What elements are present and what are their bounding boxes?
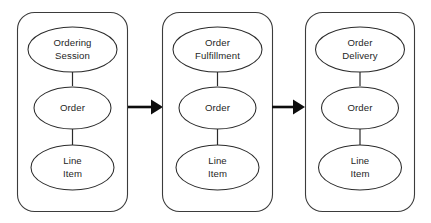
phase-group-2[interactable]: Order Fulfillment Order Line Item	[163, 13, 273, 212]
phase-group-3[interactable]: Order Delivery Order Line Item	[306, 13, 415, 212]
phase-3-node-1-label-line-2: Delivery	[342, 50, 378, 61]
arrow-2-head-icon	[293, 100, 305, 115]
phase-2-node-3-label-line-1: Line	[208, 155, 227, 166]
diagram-canvas: Ordering Session Order Line Item Order F…	[0, 0, 431, 223]
phase-1-node-1-label-line-2: Session	[55, 50, 90, 61]
phase-1-node-3-label-line-2: Item	[63, 168, 82, 179]
phase-3-node-1-label-line-1: Order	[347, 37, 373, 48]
phase-1-node-2-label: Order	[60, 102, 86, 113]
phase-2-node-3-label-line-2: Item	[208, 168, 227, 179]
phase-group-1[interactable]: Ordering Session Order Line Item	[18, 13, 128, 212]
phase-3-node-2-label: Order	[347, 102, 373, 113]
phase-1-node-3-label-line-1: Line	[63, 155, 82, 166]
order-lifecycle-diagram: Ordering Session Order Line Item Order F…	[0, 0, 431, 223]
arrow-1	[128, 100, 163, 115]
phase-3-node-3-label-line-2: Item	[350, 168, 369, 179]
phase-2-node-1-label-line-2: Fulfillment	[195, 50, 240, 61]
phase-3-node-3-label-line-1: Line	[351, 155, 370, 166]
arrow-2	[272, 100, 305, 115]
phase-2-node-1-label-line-1: Order	[205, 37, 231, 48]
phase-1-node-1-label-line-1: Ordering	[53, 37, 91, 48]
phase-2-node-2-label: Order	[205, 102, 231, 113]
arrow-1-head-icon	[151, 100, 163, 115]
